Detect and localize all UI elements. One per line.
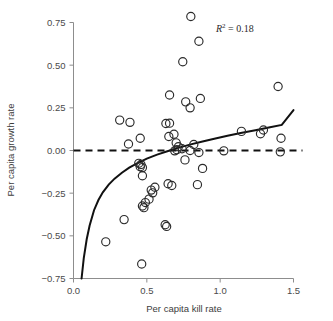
scatter-plot-figure: 0.750.500.250.00−0.25−0.50−0.75 0.00.51.… — [0, 0, 333, 321]
data-point — [193, 181, 201, 189]
data-point — [181, 156, 189, 164]
data-point — [198, 164, 206, 172]
data-point — [136, 134, 144, 142]
data-point — [126, 118, 134, 126]
y-axis-tick-labels: 0.750.500.250.00−0.25−0.50−0.75 — [41, 17, 65, 284]
r-squared-annotation: R2 = 0.18 — [215, 22, 254, 34]
data-point — [120, 216, 128, 224]
data-point — [165, 132, 173, 140]
x-tick-label: 1.0 — [214, 285, 227, 296]
y-tick-label: 0.00 — [47, 145, 66, 156]
data-point — [274, 82, 282, 90]
chart-canvas: 0.750.500.250.00−0.25−0.50−0.75 0.00.51.… — [0, 0, 333, 321]
y-axis-title: Per capita growth rate — [5, 104, 16, 197]
data-point — [182, 98, 190, 106]
data-point — [195, 37, 203, 45]
fitted-log-curve — [82, 110, 294, 278]
data-point — [277, 134, 285, 142]
x-axis-title: Per capita kill rate — [146, 303, 222, 314]
data-point — [116, 116, 124, 124]
y-tick-label: 0.75 — [47, 17, 66, 28]
y-tick-label: −0.75 — [41, 273, 65, 284]
x-tick-label: 0.5 — [140, 285, 153, 296]
x-axis-tick-marks — [74, 279, 294, 283]
y-axis-tick-marks — [70, 23, 74, 279]
data-point — [138, 260, 146, 268]
r-squared-value: = 0.18 — [226, 23, 254, 34]
x-tick-label: 0.0 — [67, 285, 80, 296]
r-squared-symbol: R — [215, 23, 222, 34]
data-point — [138, 172, 146, 180]
y-tick-label: 0.25 — [47, 102, 66, 113]
y-tick-label: −0.25 — [41, 188, 65, 199]
x-axis-tick-labels: 0.00.51.01.5 — [67, 285, 300, 296]
data-point — [187, 12, 195, 20]
data-point — [170, 130, 178, 138]
data-point-group — [102, 12, 285, 268]
y-tick-label: 0.50 — [47, 60, 66, 71]
data-point — [102, 238, 110, 246]
data-point — [276, 148, 284, 156]
data-point — [179, 58, 187, 66]
data-point — [165, 91, 173, 99]
data-point — [186, 104, 194, 112]
x-tick-label: 1.5 — [287, 285, 300, 296]
data-point — [124, 140, 132, 148]
data-point — [196, 94, 204, 102]
y-tick-label: −0.50 — [41, 230, 65, 241]
